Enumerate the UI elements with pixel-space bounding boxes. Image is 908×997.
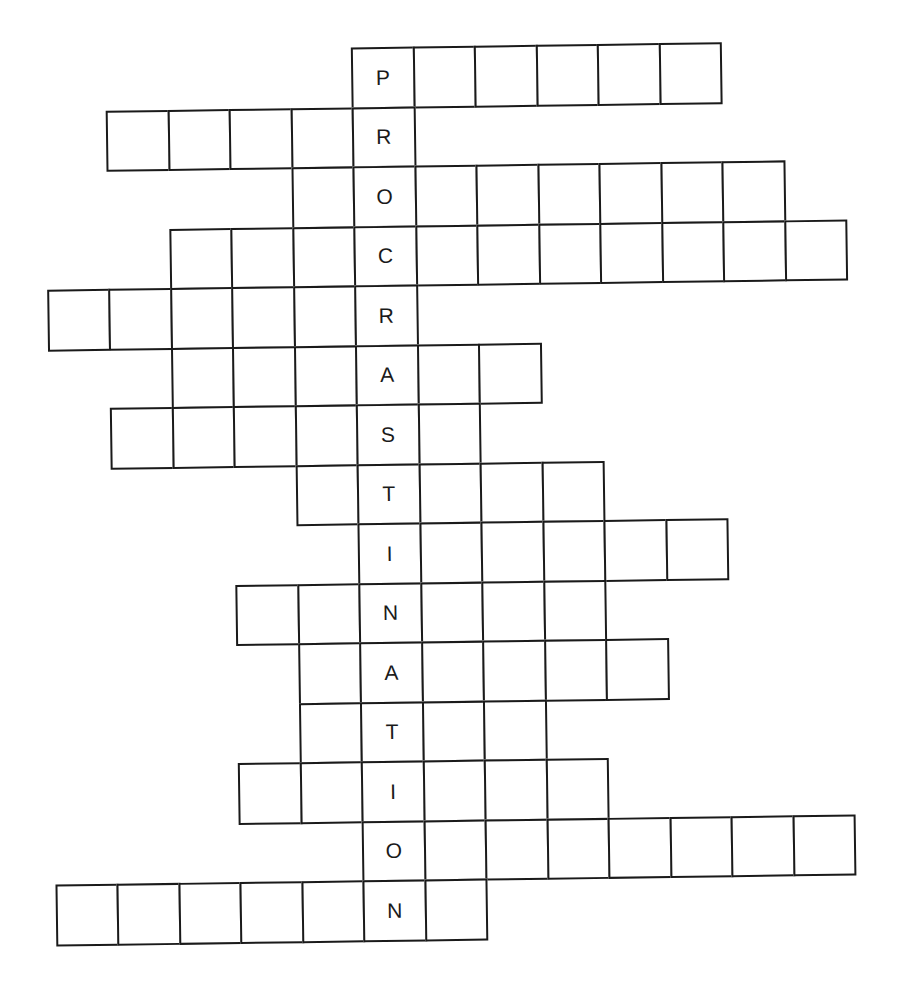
crossword-cell[interactable] [47,289,111,351]
key-letter: R [376,125,392,149]
key-letter-cell: I [357,522,421,584]
key-letter: P [376,66,390,90]
crossword-cell[interactable] [170,287,234,349]
crossword-cell[interactable] [420,581,484,643]
crossword-cell[interactable] [233,405,297,467]
crossword-cell[interactable] [419,522,483,584]
crossword-cell[interactable] [542,520,606,582]
crossword-cell[interactable] [480,461,544,523]
crossword-cell[interactable] [291,166,355,228]
key-letter-cell: O [362,820,426,882]
crossword-cell[interactable] [298,642,362,704]
crossword-cell[interactable] [424,879,488,941]
crossword-cell[interactable] [605,638,669,700]
crossword-cell[interactable] [535,44,599,106]
crossword-cell[interactable] [422,760,486,822]
key-letter: S [381,423,395,447]
crossword-cell[interactable] [599,222,663,284]
crossword-cell[interactable] [294,404,358,466]
crossword-cell[interactable] [597,43,661,105]
crossword-cell[interactable] [478,342,542,404]
crossword-cell[interactable] [418,462,482,524]
crossword-cell[interactable] [537,163,601,225]
crossword-cell[interactable] [412,46,476,108]
crossword-cell[interactable] [295,464,359,526]
crossword-cell[interactable] [416,343,480,405]
crossword-cell[interactable] [721,160,785,222]
key-letter: I [390,780,396,804]
crossword-cell[interactable] [171,406,235,468]
crossword-cell[interactable] [784,219,848,281]
crossword-cell[interactable] [110,407,174,469]
key-letter-cell: N [358,582,422,644]
crossword-cell[interactable] [116,883,180,945]
crossword-cell[interactable] [474,45,538,107]
crossword-cell[interactable] [421,641,485,703]
crossword-cell[interactable] [731,815,795,877]
key-letter-cell: R [352,106,416,168]
crossword-cell[interactable] [235,584,299,646]
crossword-cell[interactable] [543,579,607,641]
crossword-cell[interactable] [475,164,539,226]
key-letter: R [379,304,395,328]
crossword-cell[interactable] [169,228,233,290]
crossword-cell[interactable] [545,758,609,820]
key-letter: O [385,839,402,863]
crossword-cell[interactable] [598,162,662,224]
crossword-cell[interactable] [669,816,733,878]
crossword-cell[interactable] [546,817,610,879]
crossword-cell[interactable] [108,288,172,350]
crossword-cell[interactable] [480,521,544,583]
crossword-cell[interactable] [722,220,786,282]
crossword-cell[interactable] [178,882,242,944]
crossword-cell[interactable] [603,519,667,581]
key-letter: C [378,244,394,268]
crossword-cell[interactable] [106,109,170,171]
key-letter-cell: I [361,760,425,822]
crossword-cell[interactable] [170,347,234,409]
key-letter-cell: T [357,463,421,525]
crossword-cell[interactable] [538,222,602,284]
crossword-cell[interactable] [485,818,549,880]
crossword-cell[interactable] [481,580,545,642]
crossword-cell[interactable] [238,762,302,824]
crossword-cell[interactable] [544,639,608,701]
crossword-cell[interactable] [292,226,356,288]
crossword-cell[interactable] [230,227,294,289]
crossword-cell[interactable] [476,223,540,285]
crossword-cell[interactable] [665,518,729,580]
crossword-cell[interactable] [298,702,362,764]
key-letter: T [382,482,395,506]
key-letter: T [386,720,399,744]
crossword-cell[interactable] [414,165,478,227]
crossword-cell[interactable] [483,699,547,761]
crossword-cell[interactable] [482,640,546,702]
crossword-cell[interactable] [541,460,605,522]
crossword-cell[interactable] [658,42,722,104]
crossword-cell[interactable] [293,345,357,407]
crossword-cell[interactable] [792,814,856,876]
crossword-cell[interactable] [239,881,303,943]
crossword-cell[interactable] [660,161,724,223]
crossword-cell[interactable] [293,285,357,347]
crossword-cell[interactable] [229,108,293,170]
crossword-cell[interactable] [299,761,363,823]
key-letter: A [384,661,398,685]
crossword-cell[interactable] [421,700,485,762]
crossword-cell[interactable] [290,107,354,169]
crossword-cell[interactable] [423,819,487,881]
key-letter: N [387,899,403,923]
crossword-cell[interactable] [55,884,119,946]
crossword-cell[interactable] [417,403,481,465]
crossword-cell[interactable] [232,346,296,408]
crossword-cell[interactable] [301,880,365,942]
crossword-cell[interactable] [415,224,479,286]
crossword-cell[interactable] [231,286,295,348]
key-letter-cell: S [356,403,420,465]
crossword-cell[interactable] [297,583,361,645]
key-letter-cell: R [354,285,418,347]
crossword-cell[interactable] [167,109,231,171]
crossword-cell[interactable] [608,817,672,879]
crossword-cell[interactable] [661,221,725,283]
crossword-cell[interactable] [484,759,548,821]
